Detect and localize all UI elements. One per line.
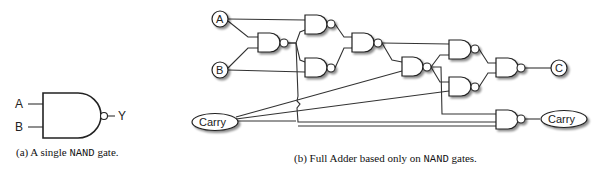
label-y: Y xyxy=(118,109,126,123)
input-a-label: A xyxy=(216,13,224,25)
input-b-label: B xyxy=(216,64,223,76)
caption-b-prefix: (b) Full Adder based only on xyxy=(294,152,424,164)
caption-a: (a) A single NAND gate. xyxy=(16,146,119,159)
carry-out-label: Carry xyxy=(548,113,575,125)
nand-gate-9 xyxy=(496,110,525,129)
caption-b-code: NAND xyxy=(424,153,449,165)
nand-gate-7 xyxy=(449,77,479,96)
label-b: B xyxy=(15,120,23,134)
nand-gate-8 xyxy=(496,58,525,77)
nand-gate-body xyxy=(43,93,101,138)
carry-in-label: Carry xyxy=(199,116,226,128)
nand-gate-4 xyxy=(352,33,382,52)
label-a: A xyxy=(15,97,23,111)
single-nand-gate-figure: A B Y xyxy=(15,93,126,138)
caption-a-suffix: gate. xyxy=(95,146,119,158)
nand-gate-5 xyxy=(402,57,431,76)
nand-gate-1 xyxy=(258,33,288,52)
nand-gate-6 xyxy=(449,40,479,59)
caption-a-code: NAND xyxy=(69,147,94,159)
sum-output-label: C xyxy=(555,62,563,74)
full-adder-figure: A B Carry C Carry xyxy=(192,11,587,131)
nand-gate-3 xyxy=(305,58,335,77)
caption-b: (b) Full Adder based only on NAND gates. xyxy=(294,152,477,165)
caption-b-suffix: gates. xyxy=(449,152,477,164)
nand-bubble xyxy=(101,113,108,120)
nand-gate-2 xyxy=(305,15,335,34)
caption-a-prefix: (a) A single xyxy=(16,146,69,158)
